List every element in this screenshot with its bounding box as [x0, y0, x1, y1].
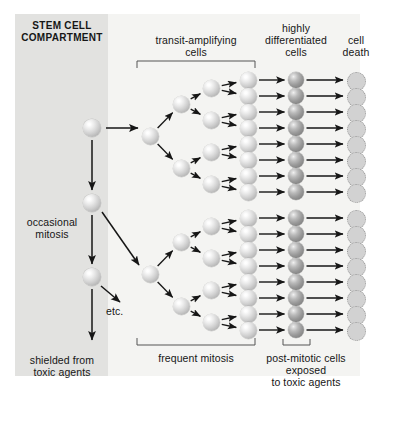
- upper-transit-amplifying-g3-1: [240, 72, 257, 89]
- upper-transit-amplifying-g2-1: [203, 80, 220, 97]
- lower-transit-amplifying-g2-2: [203, 250, 220, 267]
- upper-transit-amplifying-g3-4: [240, 120, 257, 137]
- upper-differentiated-cell-3: [288, 104, 304, 120]
- lower-transit-amplifying-g2-4: [203, 314, 220, 331]
- lower-differentiated-cell-2: [288, 226, 304, 242]
- upper-transit-amplifying-root: [142, 128, 159, 145]
- stem-cell-differentiation-diagram: STEM CELL COMPARTMENT transit-amplifying…: [0, 0, 393, 426]
- lower-transit-amplifying-g3-5: [240, 274, 257, 291]
- lower-dead-cell-8: [347, 322, 366, 341]
- lower-transit-amplifying-g3-4: [240, 258, 257, 275]
- upper-differentiated-cell-4: [288, 120, 304, 136]
- lower-transit-amplifying-g2-3: [203, 282, 220, 299]
- lower-transit-amplifying-root: [142, 266, 159, 283]
- upper-differentiated-cell-7: [288, 168, 304, 184]
- lower-transit-amplifying-g3-6: [240, 290, 257, 307]
- lower-transit-amplifying-g3-1: [240, 210, 257, 227]
- lower-differentiated-cell-8: [288, 322, 304, 338]
- lower-differentiated-cell-4: [288, 258, 304, 274]
- stem-cell-1: [83, 119, 101, 137]
- lower-differentiated-cell-1: [288, 210, 304, 226]
- upper-transit-amplifying-g2-4: [203, 176, 220, 193]
- upper-differentiated-cell-6: [288, 152, 304, 168]
- lower-transit-amplifying-g3-2: [240, 226, 257, 243]
- upper-transit-amplifying-g3-7: [240, 168, 257, 185]
- upper-differentiated-cell-5: [288, 136, 304, 152]
- lower-transit-amplifying-g3-7: [240, 306, 257, 323]
- lower-transit-amplifying-g3-3: [240, 242, 257, 259]
- lower-differentiated-cell-7: [288, 306, 304, 322]
- upper-transit-amplifying-g3-3: [240, 104, 257, 121]
- upper-transit-amplifying-g3-8: [240, 184, 257, 201]
- stem-cell-2: [83, 194, 101, 212]
- upper-transit-amplifying-g2-2: [203, 112, 220, 129]
- upper-differentiated-cell-1: [288, 72, 304, 88]
- upper-transit-amplifying-g3-6: [240, 152, 257, 169]
- arrow-group: [92, 128, 139, 340]
- lower-differentiated-cell-3: [288, 242, 304, 258]
- stem-cell-3: [83, 268, 101, 286]
- lower-transit-amplifying-g3-8: [240, 322, 257, 339]
- upper-transit-amplifying-g1-2: [173, 160, 190, 177]
- upper-differentiated-cell-2: [288, 88, 304, 104]
- upper-dead-cell-8: [347, 184, 366, 203]
- lower-differentiated-cell-6: [288, 290, 304, 306]
- upper-transit-amplifying-g3-5: [240, 136, 257, 153]
- lower-transit-amplifying-g1-2: [173, 298, 190, 315]
- upper-transit-amplifying-g3-2: [240, 88, 257, 105]
- arrow-and-bracket-layer: [0, 0, 393, 426]
- upper-transit-amplifying-g1-1: [173, 96, 190, 113]
- upper-transit-amplifying-g2-3: [203, 144, 220, 161]
- bracket-group: [137, 61, 310, 345]
- lower-transit-amplifying-g1-1: [173, 234, 190, 251]
- upper-differentiated-cell-8: [288, 184, 304, 200]
- lower-differentiated-cell-5: [288, 274, 304, 290]
- lower-transit-amplifying-g2-1: [203, 218, 220, 235]
